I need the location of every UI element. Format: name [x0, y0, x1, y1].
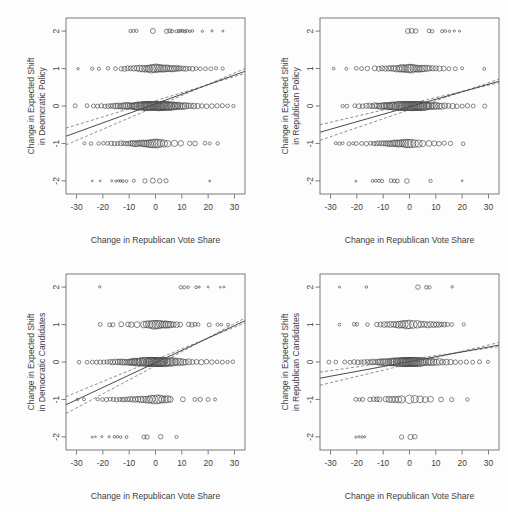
- panel-top-left-plot: -30-20-100102030-2-1012Change in Republi…: [0, 0, 254, 256]
- x-tick-label: 0: [153, 458, 158, 468]
- y-axis-title-line2: in Republican Candidates: [291, 313, 301, 411]
- x-tick-label: 0: [407, 202, 412, 212]
- x-tick-label: 20: [203, 458, 213, 468]
- panel-top-right: -30-20-100102030-2-1012Change in Republi…: [254, 0, 508, 256]
- x-axis-title: Change in Republican Vote Share: [345, 235, 475, 245]
- x-tick-label: -20: [97, 458, 109, 468]
- x-tick-label: -10: [377, 458, 389, 468]
- x-axis-title: Change in Republican Vote Share: [91, 491, 221, 501]
- x-tick-label: -20: [97, 202, 109, 212]
- x-tick-label: -30: [70, 202, 82, 212]
- y-tick-label: 2: [51, 28, 61, 33]
- y-axis-title-line2: in Republican Policy: [291, 67, 301, 145]
- y-tick-label: 0: [51, 359, 61, 364]
- x-tick-label: -10: [123, 458, 135, 468]
- y-axis-title-line1: Change in Expected Shift: [280, 57, 290, 155]
- figure-canvas: -30-20-100102030-2-1012Change in Republi…: [0, 0, 508, 512]
- x-tick-label: 30: [230, 202, 240, 212]
- panel-bottom-left-plot: -30-20-100102030-2-1012Change in Republi…: [0, 256, 254, 512]
- y-tick-label: 1: [305, 322, 315, 327]
- x-tick-label: 0: [153, 202, 158, 212]
- x-tick-label: -20: [351, 202, 363, 212]
- y-tick-label: 0: [305, 103, 315, 108]
- y-tick-label: -2: [305, 177, 315, 185]
- panel-bottom-left: -30-20-100102030-2-1012Change in Republi…: [0, 256, 254, 512]
- y-tick-label: 0: [51, 103, 61, 108]
- y-tick-label: 2: [305, 28, 315, 33]
- y-tick-label: -1: [51, 139, 61, 147]
- y-tick-label: 0: [305, 359, 315, 364]
- x-tick-label: -30: [324, 458, 336, 468]
- y-axis-title-line1: Change in Expected Shift: [26, 57, 36, 155]
- y-axis-title-line1: Change in Expected Shift: [26, 313, 36, 411]
- x-tick-label: 20: [457, 202, 467, 212]
- x-tick-label: -10: [377, 202, 389, 212]
- x-tick-label: -30: [70, 458, 82, 468]
- x-tick-label: 10: [177, 458, 187, 468]
- y-tick-label: 2: [305, 284, 315, 289]
- y-tick-label: -2: [51, 177, 61, 185]
- y-tick-label: 1: [305, 66, 315, 71]
- y-axis-title-line1: Change in Expected Shift: [280, 313, 290, 411]
- x-tick-label: 20: [457, 458, 467, 468]
- x-tick-label: 30: [484, 202, 494, 212]
- y-tick-label: -1: [51, 395, 61, 403]
- y-tick-label: 1: [51, 66, 61, 71]
- y-tick-label: -2: [51, 433, 61, 441]
- panel-top-right-plot: -30-20-100102030-2-1012Change in Republi…: [254, 0, 508, 256]
- y-tick-label: 1: [51, 322, 61, 327]
- y-tick-label: -2: [305, 433, 315, 441]
- x-tick-label: 20: [203, 202, 213, 212]
- y-axis-title-line2: in Democratic Candidates: [37, 313, 47, 411]
- y-tick-label: -1: [305, 395, 315, 403]
- x-tick-label: 10: [431, 202, 441, 212]
- x-tick-label: -30: [324, 202, 336, 212]
- x-tick-label: 10: [431, 458, 441, 468]
- panel-bottom-right: -30-20-100102030-2-1012Change in Republi…: [254, 256, 508, 512]
- y-tick-label: 2: [51, 284, 61, 289]
- panel-top-left: -30-20-100102030-2-1012Change in Republi…: [0, 0, 254, 256]
- x-tick-label: 30: [230, 458, 240, 468]
- x-axis-title: Change in Republican Vote Share: [91, 235, 221, 245]
- x-tick-label: -20: [351, 458, 363, 468]
- panel-bottom-right-plot: -30-20-100102030-2-1012Change in Republi…: [254, 256, 508, 512]
- y-axis-title-line2: in Deomcratic Policy: [37, 66, 47, 145]
- x-axis-title: Change in Republican Vote Share: [345, 491, 475, 501]
- x-tick-label: 30: [484, 458, 494, 468]
- x-tick-label: 10: [177, 202, 187, 212]
- y-tick-label: -1: [305, 139, 315, 147]
- x-tick-label: -10: [123, 202, 135, 212]
- x-tick-label: 0: [407, 458, 412, 468]
